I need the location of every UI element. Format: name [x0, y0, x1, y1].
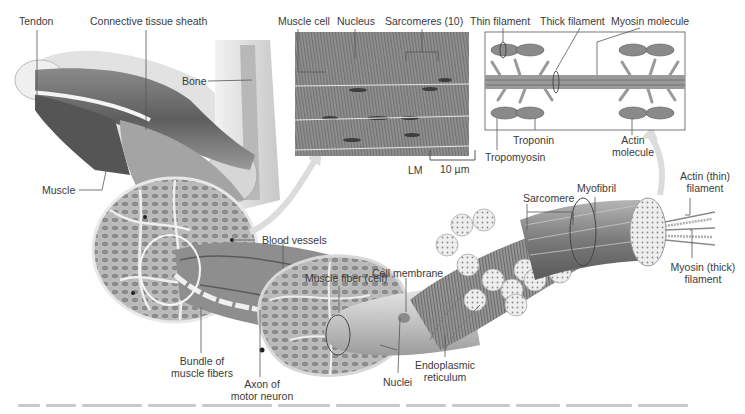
label-myosin-thick-filament: Myosin (thick) filament [663, 261, 743, 285]
label-tendon: Tendon [19, 15, 53, 27]
label-myosin-molecule: Myosin molecule [611, 15, 689, 27]
label-muscle-cell: Muscle cell [278, 15, 330, 27]
label-sarcomeres: Sarcomeres (10) [385, 15, 463, 27]
label-myofibril: Myofibril [577, 182, 616, 194]
muscle-anatomy-figure: Tendon Connective tissue sheath Bone Mus… [0, 0, 745, 414]
label-bone: Bone [182, 75, 207, 87]
label-troponin: Troponin [513, 134, 554, 146]
figure-caption-truncated [18, 404, 738, 410]
micrograph-inset [295, 32, 469, 156]
label-endoplasmic-reticulum: Endoplasmic reticulum [412, 359, 478, 383]
label-thin-filament: Thin filament [470, 15, 530, 27]
label-tropomyosin: Tropomyosin [485, 151, 545, 163]
label-sarcomere: Sarcomere [523, 192, 574, 204]
label-connective-tissue-sheath: Connective tissue sheath [90, 15, 207, 27]
label-blood-vessels: Blood vessels [262, 234, 327, 246]
label-axon-of-motor-neuron: Axon of motor neuron [230, 378, 294, 402]
figure-artwork [0, 0, 745, 414]
label-bundle-of-muscle-fibers: Bundle of muscle fibers [170, 355, 234, 379]
label-actin-molecule: Actin molecule [608, 134, 658, 158]
label-actin-thin-filament: Actin (thin) filament [670, 170, 740, 194]
filament-inset [485, 32, 685, 130]
label-technique-lm: LM [408, 164, 423, 176]
label-muscle: Muscle [42, 184, 75, 196]
label-cell-membrane: Cell membrane [372, 267, 443, 279]
label-nucleus: Nucleus [337, 15, 375, 27]
scale-bar-label: 10 µm [440, 163, 469, 175]
label-nuclei: Nuclei [383, 376, 412, 388]
label-thick-filament: Thick filament [540, 15, 605, 27]
